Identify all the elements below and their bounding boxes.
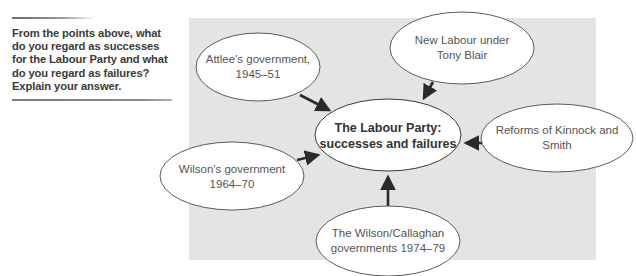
node-wilson: Wilson's government 1964–70 [160, 142, 304, 210]
node-wilson-line1: Wilson's government [179, 163, 286, 175]
center-title-line1: The Labour Party: [335, 121, 442, 135]
node-new-labour: New Labour under Tony Blair [390, 12, 534, 84]
center-title-line2: successes and failures [320, 137, 457, 151]
node-new-labour-line2: Tony Blair [437, 49, 488, 61]
node-wilson-callaghan-line1: The Wilson/Callaghan [332, 227, 445, 239]
node-center: The Labour Party: successes and failures [315, 99, 461, 171]
node-wilson-callaghan: The Wilson/Callaghan governments 1974–79 [316, 206, 460, 276]
node-wilson-line2: 1964–70 [210, 178, 255, 190]
node-attlee: Attlee's government, 1945–51 [196, 33, 320, 101]
node-attlee-line1: Attlee's government, [206, 53, 310, 65]
node-kinnock-smith-line1: Reforms of Kinnock and [496, 124, 619, 136]
node-kinnock-smith-line2: Smith [542, 139, 571, 151]
node-kinnock-smith: Reforms of Kinnock and Smith [481, 104, 633, 172]
node-wilson-callaghan-line2: governments 1974–79 [331, 242, 445, 254]
node-attlee-line2: 1945–51 [236, 68, 281, 80]
mind-map-diagram: Attlee's government, 1945–51 New Labour … [0, 0, 636, 276]
node-new-labour-line1: New Labour under [415, 34, 510, 46]
